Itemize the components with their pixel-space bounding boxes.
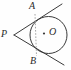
label-point-b: B [30, 56, 36, 66]
tangent-line-pb [14, 35, 64, 65]
geometry-figure: P A B O [0, 0, 71, 70]
center-point-dot [43, 32, 45, 34]
label-point-a: A [29, 1, 35, 11]
label-point-o: O [49, 27, 56, 37]
label-point-p: P [1, 29, 7, 39]
